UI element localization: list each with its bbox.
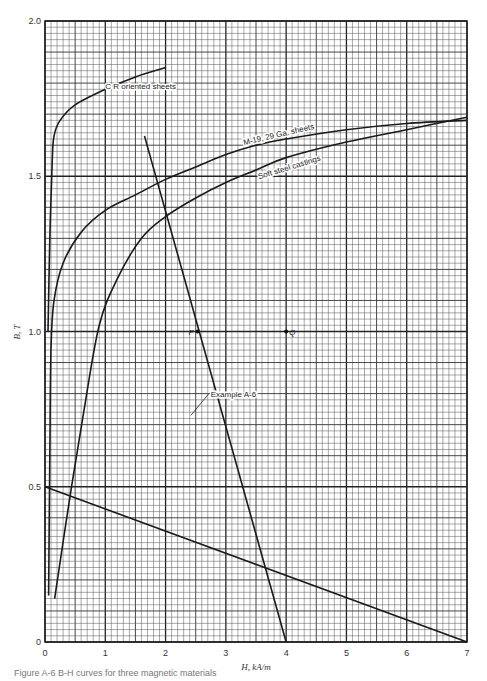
y-tick-label: 1.5 bbox=[28, 171, 41, 181]
series-label: Example A-6 bbox=[211, 390, 257, 399]
grid bbox=[45, 21, 467, 642]
x-axis-title: H, kA/m bbox=[240, 662, 271, 672]
y-tick-label: 1.0 bbox=[28, 327, 41, 337]
series-label: C R oriented sheets bbox=[105, 82, 176, 91]
x-tick-label: 4 bbox=[284, 648, 289, 658]
x-tick-label: 2 bbox=[163, 648, 168, 658]
y-tick-label: 2.0 bbox=[28, 16, 41, 26]
figure-caption: Figure A-6 B-H curves for three magnetic… bbox=[14, 668, 217, 678]
x-tick-label: 6 bbox=[404, 648, 409, 658]
series-line bbox=[55, 117, 467, 598]
point-marker bbox=[196, 330, 200, 334]
y-tick-label: 0.5 bbox=[28, 482, 41, 492]
x-tick-label: 5 bbox=[344, 648, 349, 658]
point-label: Q bbox=[289, 328, 295, 337]
x-tick-label: 3 bbox=[223, 648, 228, 658]
series-line bbox=[48, 68, 166, 332]
bh-curve-chart: C R oriented sheetsM-19, 29 Ga. sheetsSo… bbox=[0, 0, 487, 681]
x-tick-label: 0 bbox=[42, 648, 47, 658]
y-axis-title: B, T bbox=[12, 324, 22, 340]
x-tick-label: 1 bbox=[103, 648, 108, 658]
point-marker bbox=[284, 330, 288, 334]
x-tick-label: 7 bbox=[464, 648, 469, 658]
point-label: P bbox=[189, 328, 195, 337]
y-tick-label: 0 bbox=[36, 637, 41, 647]
